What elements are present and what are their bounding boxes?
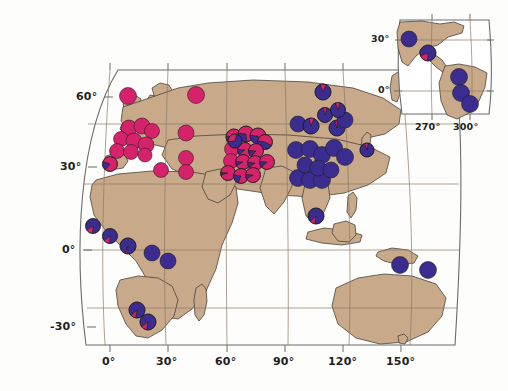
- pie-marker: [392, 257, 409, 274]
- pie-marker: [315, 84, 331, 100]
- pie-marker: [120, 88, 137, 105]
- pie-slice-allele-a: [178, 125, 194, 141]
- pie-marker: [401, 31, 417, 47]
- pie-marker: [103, 229, 118, 244]
- pie-slice-allele-b: [144, 245, 160, 261]
- pie-marker: [144, 245, 160, 261]
- pie-slice-allele-b: [462, 96, 479, 113]
- main-ylabel-60: 60°: [76, 90, 97, 103]
- pie-marker: [178, 125, 194, 141]
- pie-marker: [120, 238, 136, 254]
- pie-marker: [323, 162, 339, 178]
- main-ylabel-0: 0°: [62, 243, 76, 256]
- landmasses: [90, 72, 446, 344]
- main-ylabel-30: 30°: [60, 160, 81, 173]
- pie-marker: [179, 165, 194, 180]
- pie-marker: [420, 45, 436, 61]
- pie-marker: [145, 124, 160, 139]
- figure-canvas: 60° 30° 0° -30° 0° 30° 60° 90° 120° 150°…: [0, 0, 508, 391]
- pie-slice-allele-a: [179, 165, 194, 180]
- pie-slice-allele-b: [160, 253, 176, 269]
- pie-slice-allele-a: [188, 87, 205, 104]
- pie-slice-allele-a: [145, 124, 160, 139]
- pie-slice-allele-a: [110, 144, 125, 159]
- pie-marker: [360, 143, 374, 157]
- main-xlabel-90: 90°: [273, 355, 294, 368]
- pie-marker: [451, 69, 468, 86]
- main-xlabel-60: 60°: [215, 355, 236, 368]
- main-xlabel-0: 0°: [102, 355, 116, 368]
- pie-slice-allele-b: [401, 31, 417, 47]
- inset-xlabel-300: 300°: [453, 121, 478, 132]
- pie-marker: [129, 302, 145, 318]
- inset-map: [394, 14, 494, 120]
- pie-marker: [140, 314, 156, 330]
- land-philippines: [347, 192, 357, 218]
- pie-marker: [160, 253, 176, 269]
- pie-slice-allele-a: [179, 151, 194, 166]
- pie-marker: [260, 155, 275, 170]
- pie-marker: [420, 262, 437, 279]
- inset-ylabel-0: 0°: [378, 84, 390, 95]
- pie-slice-allele-b: [337, 149, 354, 166]
- pie-marker: [103, 157, 118, 172]
- pie-slice-allele-a: [138, 148, 152, 162]
- land-india: [260, 166, 294, 214]
- pie-slice-allele-a: [120, 88, 137, 105]
- pie-marker: [331, 103, 346, 118]
- pie-marker: [246, 168, 261, 183]
- main-xlabel-150: 150°: [386, 355, 415, 368]
- inset-xlabel-270: 270°: [415, 121, 440, 132]
- pie-slice-allele-a: [124, 145, 139, 160]
- pie-slice-allele-b: [420, 262, 437, 279]
- pie-marker: [462, 96, 479, 113]
- land-madagascar: [194, 284, 207, 321]
- inset-ylabel-30: 30°: [371, 33, 390, 44]
- main-xlabel-30: 30°: [156, 355, 177, 368]
- map-svg: [0, 0, 508, 391]
- pie-marker: [86, 219, 101, 234]
- pie-slice-allele-b: [323, 162, 339, 178]
- pie-marker: [303, 118, 319, 134]
- pie-slice-allele-b: [392, 257, 409, 274]
- pie-marker: [220, 166, 235, 181]
- pie-marker: [179, 151, 194, 166]
- pie-marker: [138, 148, 152, 162]
- pie-marker: [124, 145, 139, 160]
- pie-marker: [154, 163, 169, 178]
- pie-marker: [188, 87, 205, 104]
- pie-slice-allele-a: [154, 163, 169, 178]
- pie-marker: [337, 149, 354, 166]
- pie-slice-allele-b: [451, 69, 468, 86]
- pie-marker: [308, 208, 324, 224]
- main-xlabel-120: 120°: [328, 355, 357, 368]
- pie-marker: [228, 134, 242, 148]
- main-ylabel-neg30: -30°: [50, 320, 76, 333]
- pie-marker: [110, 144, 125, 159]
